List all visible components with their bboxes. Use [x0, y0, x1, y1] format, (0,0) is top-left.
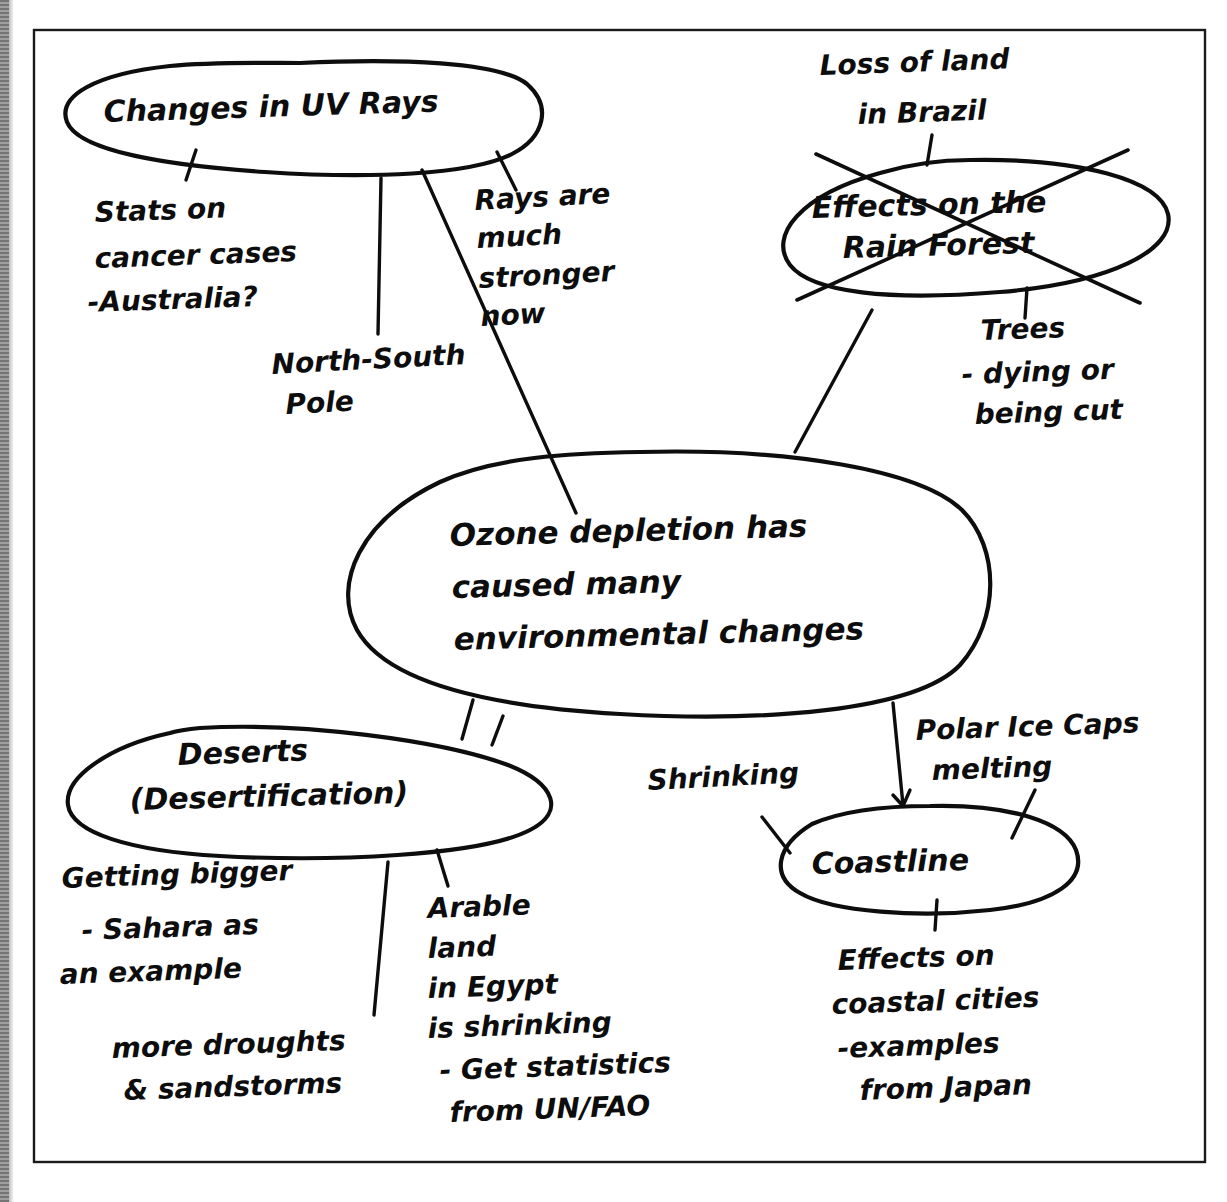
note-coastal-cities-line2: coastal cities — [831, 981, 1040, 1021]
note-coastal-cities-line1: Effects on — [837, 939, 995, 977]
note-rays-line4: now — [480, 297, 547, 333]
note-coastal-cities-line4: from Japan — [859, 1068, 1032, 1107]
strikeout-line-1 — [797, 150, 1128, 300]
note-coastal-cities-line3: -examples — [837, 1026, 1000, 1065]
note-rays-line2: much — [476, 218, 563, 255]
note-stats-line1: Stats on — [94, 191, 226, 229]
connector-uv-to-pole — [378, 178, 381, 334]
note-arable-line6: from UN/FAO — [449, 1089, 651, 1129]
note-loss-of-land-line1: Loss of land — [819, 42, 1011, 82]
note-stats-line3: -Australia? — [87, 280, 258, 319]
mindmap-canvas: Changes in UV Rays Loss of land in Brazi… — [0, 0, 1227, 1202]
node-label-center-line1: Ozone depletion has — [449, 508, 808, 553]
node-label-uv-rays: Changes in UV Rays — [103, 83, 439, 129]
note-trees-line2: - dying or — [961, 353, 1116, 391]
note-arable-line1: Arable — [425, 888, 531, 925]
node-label-deserts-line2: (Desertification) — [129, 775, 408, 817]
note-arable-line4: is shrinking — [427, 1006, 612, 1045]
connector-center-to-deserts — [462, 700, 473, 739]
node-label-rain-forest-line2: Rain Forest — [842, 225, 1036, 265]
note-arable-line2: land — [427, 930, 498, 965]
note-north-south-pole-line2: Pole — [285, 384, 355, 421]
note-arable-line3: in Egypt — [427, 967, 560, 1005]
note-polar-ice-line2: melting — [931, 750, 1053, 787]
note-arable-line5: - Get statistics — [439, 1046, 671, 1087]
mindmap-page: Changes in UV Rays Loss of land in Brazi… — [0, 0, 1227, 1202]
node-label-coastline: Coastline — [811, 842, 969, 881]
node-label-deserts-line1: Deserts — [177, 732, 309, 772]
note-getting-bigger-line3: an example — [59, 952, 242, 991]
note-polar-ice-line1: Polar Ice Caps — [915, 706, 1140, 747]
connector-deserts-divider — [374, 862, 388, 1015]
node-label-center-line2: caused many — [451, 563, 683, 605]
node-label-center-line3: environmental changes — [453, 610, 864, 657]
note-trees-line3: being cut — [974, 393, 1125, 431]
note-shrinking: Shrinking — [647, 756, 800, 797]
note-stats-line2: cancer cases — [94, 235, 297, 275]
note-droughts-line2: & sandstorms — [123, 1066, 343, 1107]
note-rays-line1: Rays are — [474, 177, 611, 217]
note-getting-bigger-line2: - Sahara as — [81, 908, 259, 947]
node-label-rain-forest-line1: Effects on the — [811, 184, 1047, 225]
connector-deserts-stub-up — [492, 716, 503, 745]
note-getting-bigger-line1: Getting bigger — [61, 854, 295, 895]
note-rays-line3: stronger — [478, 255, 618, 295]
connector-center-to-coastline — [893, 703, 903, 805]
note-droughts-line1: more droughts — [111, 1024, 346, 1065]
connector-rainforest-to-center — [795, 310, 872, 452]
connector-deserts-to-arable — [437, 850, 448, 886]
note-loss-of-land-line2: in Brazil — [857, 94, 987, 131]
note-trees-line1: Trees — [980, 311, 1066, 347]
note-north-south-pole-line1: North-South — [271, 338, 467, 381]
